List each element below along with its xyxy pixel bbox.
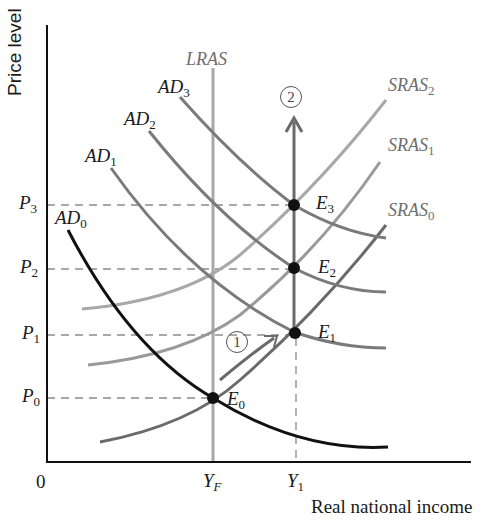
e0-point (207, 392, 219, 404)
ad0-label: AD0 (55, 208, 87, 230)
p1-label: P1 (22, 323, 40, 345)
ad3-label: AD3 (158, 77, 190, 99)
p2-label: P2 (20, 257, 38, 279)
e3-label: E3 (316, 193, 334, 215)
p0-label: P0 (22, 386, 40, 408)
lras-label: LRAS (186, 50, 227, 68)
origin-label: 0 (36, 472, 46, 491)
step2-marker: 2 (280, 86, 302, 108)
y-axis-label: Price level (4, 8, 26, 96)
e0-label: E0 (227, 389, 245, 411)
yf-label: YF (203, 471, 222, 493)
ad1-curve (111, 168, 386, 348)
ad-as-diagram: Price level Real national income 0 P3 P2… (0, 0, 492, 523)
sras2-label: SRAS2 (388, 76, 435, 97)
ad2-label: AD2 (124, 109, 156, 131)
e2-point (288, 262, 300, 274)
y1-label: Y1 (287, 471, 304, 493)
ad1-label: AD1 (85, 146, 117, 168)
sras0-label: SRAS0 (388, 201, 435, 222)
e2-label: E2 (318, 257, 336, 279)
p3-label: P3 (19, 193, 37, 215)
e1-point (289, 327, 301, 339)
e3-point (288, 199, 300, 211)
x-axis-label: Real national income (311, 496, 472, 518)
sras1-label: SRAS1 (388, 136, 435, 157)
e1-label: E1 (318, 322, 336, 344)
step1-marker: 1 (226, 331, 248, 353)
